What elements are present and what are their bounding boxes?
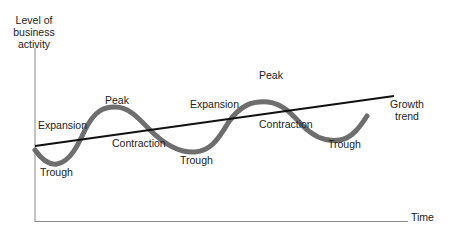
y-axis-label-line-1: Level of	[12, 14, 56, 26]
label-trough-0: Trough	[40, 166, 73, 178]
y-axis-label-line-3: activity	[12, 38, 56, 50]
label-trough-1: Trough	[180, 154, 213, 166]
x-axis-label: Time	[411, 211, 434, 223]
label-expansion-2: Expansion	[190, 98, 239, 110]
label-contraction-2: Contraction	[259, 118, 313, 130]
label-trough-2: Trough	[328, 138, 361, 150]
label-contraction-1: Contraction	[112, 137, 166, 149]
business-cycle-diagram	[0, 0, 451, 236]
label-peak-1: Peak	[105, 94, 129, 106]
label-peak-2: Peak	[259, 69, 283, 81]
label-expansion-1: Expansion	[38, 119, 87, 131]
y-axis-label-line-2: business	[12, 26, 56, 38]
growth-trend-label: Growth trend	[387, 98, 427, 122]
trend-label-line-1: Growth	[387, 98, 427, 110]
trend-label-line-2: trend	[387, 110, 427, 122]
y-axis-label: Level of business activity	[12, 14, 56, 50]
